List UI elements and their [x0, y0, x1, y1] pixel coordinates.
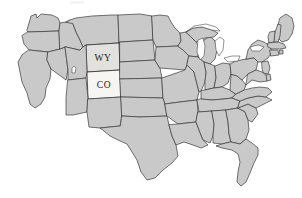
state-california — [18, 50, 51, 108]
great-salt-lake — [72, 66, 76, 73]
state-washington — [27, 14, 60, 32]
us-map-figure: WY CO — [0, 0, 302, 198]
lake-erie — [224, 56, 240, 62]
state-massachusetts — [268, 42, 286, 49]
label-colorado: CO — [97, 80, 112, 90]
state-south-dakota — [120, 40, 155, 62]
state-arizona — [66, 78, 88, 115]
state-nebraska — [120, 60, 162, 79]
state-arkansas — [165, 100, 198, 124]
state-utah — [65, 45, 87, 80]
label-wyoming: WY — [94, 53, 111, 63]
state-new-mexico — [87, 97, 122, 128]
state-north-dakota — [118, 14, 153, 43]
top-edge-artifact — [70, 1, 84, 4]
state-new-jersey — [262, 61, 270, 74]
state-kansas — [120, 78, 163, 98]
state-florida — [216, 139, 258, 186]
us-states-map: WY CO — [0, 0, 302, 198]
state-vermont — [268, 31, 275, 43]
state-minnesota — [152, 15, 181, 47]
state-oklahoma — [121, 97, 167, 117]
state-ohio — [214, 63, 231, 88]
state-connecticut — [270, 50, 279, 56]
state-oregon — [22, 31, 60, 52]
state-rhode-island — [280, 50, 283, 54]
